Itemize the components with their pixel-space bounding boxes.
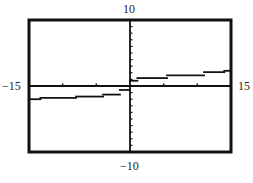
graph-window [0,0,253,183]
ymax-label: 10 [123,3,135,15]
ymin-label: −10 [120,160,139,172]
xmin-label: −15 [2,80,21,92]
xmax-label: 15 [238,80,250,92]
